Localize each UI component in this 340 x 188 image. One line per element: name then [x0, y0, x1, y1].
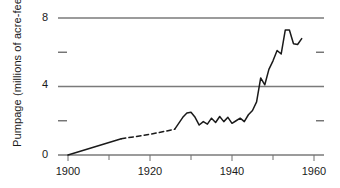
chart-figure: Pumpage (millions of acre-feet) 8 4 0 19… — [0, 0, 340, 188]
axis-ticks — [58, 52, 324, 161]
data-line-segment-2 — [175, 30, 302, 129]
chart-plot-area — [0, 0, 340, 188]
data-line-segment-1 — [121, 129, 174, 138]
data-line-segment-0 — [68, 139, 121, 155]
data-series-group — [68, 30, 302, 155]
